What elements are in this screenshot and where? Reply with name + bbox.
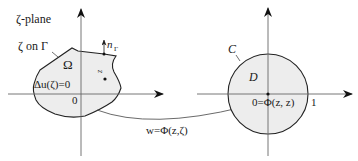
boundary-label: ζ on Γ xyxy=(18,39,48,53)
center-label: 0=Φ(z, z) xyxy=(252,96,295,109)
disk-label: D xyxy=(248,70,258,84)
region-label: Ω xyxy=(63,57,73,72)
mapping-label: w=Φ(z,ζ) xyxy=(146,124,188,137)
normal-label: n Γ xyxy=(107,38,118,53)
boundary-point xyxy=(103,53,106,56)
circle-label-leader xyxy=(236,55,240,61)
plane-label: ζ-plane xyxy=(16,12,51,26)
laplace-equation-label: Δu(ζ)=0 xyxy=(34,78,71,91)
origin-label: 0 xyxy=(72,94,78,106)
normal-label-main: n xyxy=(107,38,113,50)
interior-point-z xyxy=(103,77,106,80)
boundary-label-leader xyxy=(52,52,58,57)
mapping-arrow xyxy=(97,107,243,119)
normal-label-subscript: Γ xyxy=(114,45,118,53)
unit-label: 1 xyxy=(311,96,317,108)
mapping: w=Φ(z,ζ) xyxy=(97,107,243,137)
zeta-plane-panel: ζ-plane ζ on Γ Ω Δu(ζ)=0 0 n Γ z xyxy=(8,9,163,156)
conformal-map-diagram: ζ-plane ζ on Γ Ω Δu(ζ)=0 0 n Γ z w=Φ(z,ζ… xyxy=(0,0,358,161)
w-plane-panel: C D 0=Φ(z, z) 1 xyxy=(197,8,352,156)
circle-label: C xyxy=(228,42,237,56)
